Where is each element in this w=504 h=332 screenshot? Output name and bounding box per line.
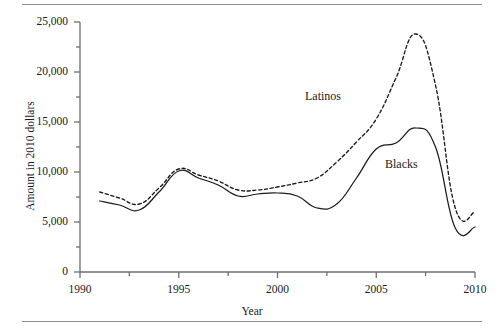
y-tick-label: 0 [0,266,68,278]
x-tick-label: 2000 [248,284,308,296]
x-tick-label: 2005 [346,284,406,296]
x-tick-label: 2010 [445,284,504,296]
x-tick-label: 1995 [149,284,209,296]
series-label-latinos: Latinos [305,89,341,104]
x-tick-label: 1990 [50,284,110,296]
axes [80,22,475,272]
series-line-blacks [100,128,475,236]
y-axis-ticks [74,22,80,272]
data-series [100,34,475,236]
x-axis-ticks [80,272,475,278]
chart-figure: 05,00010,00015,00020,00025,000 199019952… [0,0,504,332]
series-label-blacks: Blacks [385,157,418,172]
y-tick-label: 25,000 [0,16,68,28]
x-axis-title: Year [0,305,504,317]
y-axis-title: Amount in 2010 dollars [24,66,36,246]
